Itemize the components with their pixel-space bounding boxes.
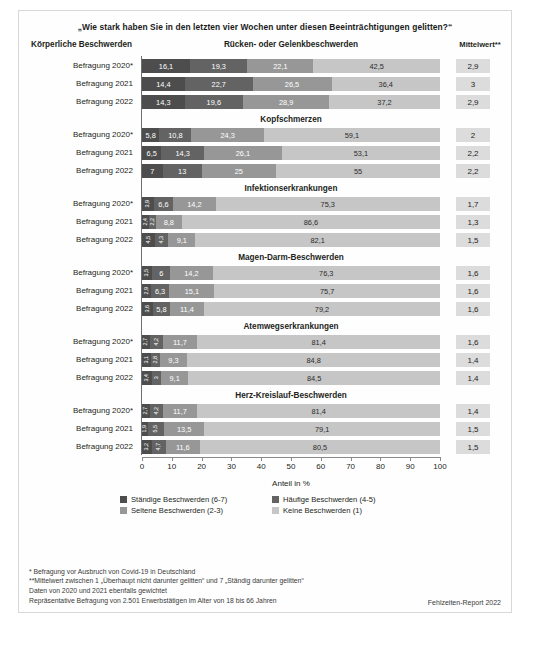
bar-segment: 2,8 <box>151 353 159 367</box>
row-label: Befragung 2020* <box>19 58 137 74</box>
x-axis-tick-label: 40 <box>257 462 266 471</box>
stacked-bar: 7132555 <box>142 164 440 178</box>
segment-value: 81,4 <box>311 338 325 347</box>
mean-value: 1,3 <box>456 215 490 229</box>
segment-value: 8,8 <box>164 218 174 227</box>
segment-value: 59,1 <box>345 131 359 140</box>
bar-segment: 75,7 <box>214 284 440 298</box>
x-axis-tick-label: 90 <box>406 462 415 471</box>
row-label: Befragung 2022 <box>19 301 137 317</box>
chart-group: KopfschmerzenBefragung 2020*5,810,824,35… <box>19 112 511 179</box>
column-headers: Körperliche Beschwerden Rücken- oder Gel… <box>19 40 511 56</box>
stacked-bar: 14,422,726,536,4 <box>142 77 440 91</box>
segment-value-rotated: 5,5 <box>153 425 158 433</box>
segment-value: 6 <box>159 269 163 278</box>
segment-value: 25 <box>235 167 243 176</box>
x-axis-tick <box>321 457 322 461</box>
stacked-bar: 2,74,211,781,4 <box>142 404 440 418</box>
bar-segment: 4,2 <box>150 404 163 418</box>
x-axis-tick-label: 10 <box>167 462 176 471</box>
segment-value-rotated: 4,7 <box>156 443 161 451</box>
row-label: Befragung 2021 <box>19 352 137 368</box>
x-axis-tick <box>351 457 352 461</box>
x-axis-tick-label: 80 <box>376 462 385 471</box>
segment-value: 53,1 <box>354 149 368 158</box>
bar-segment: 3,1 <box>142 353 151 367</box>
chart-row: Befragung 2020*5,810,824,359,12 <box>19 127 511 143</box>
stacked-bar: 2,42,28,886,6 <box>142 215 440 229</box>
chart-row: Befragung 2020*3,96,614,275,31,7 <box>19 196 511 212</box>
legend: Ständige Beschwerden (6-7)Häufige Beschw… <box>120 495 410 515</box>
x-axis-tick <box>291 457 292 461</box>
chart-title: „Wie stark haben Sie in den letzten vier… <box>19 22 511 32</box>
mean-value: 1,6 <box>456 266 490 280</box>
stacked-bar: 5,810,824,359,1 <box>142 128 440 142</box>
legend-label: Keine Beschwerden (1) <box>283 506 362 515</box>
chart-row: Befragung 202271325552,2 <box>19 163 511 179</box>
bar-segment: 4,5 <box>142 233 155 247</box>
x-axis-tick-label: 70 <box>346 462 355 471</box>
segment-value: 13,5 <box>177 425 191 434</box>
mean-value: 2 <box>456 128 490 142</box>
segment-value: 36,4 <box>379 80 393 89</box>
bar-segment: 13 <box>163 164 202 178</box>
legend-item: Keine Beschwerden (1) <box>272 506 362 515</box>
chart-row: Befragung 20211,95,513,579,11,5 <box>19 421 511 437</box>
segment-value: 14,2 <box>184 269 198 278</box>
bar-segment: 2,4 <box>142 215 149 229</box>
row-label: Befragung 2020* <box>19 403 137 419</box>
segment-value-rotated: 3,5 <box>145 269 150 277</box>
bar-segment: 15,1 <box>169 284 214 298</box>
mean-value: 1,6 <box>456 302 490 316</box>
x-axis-tick <box>231 457 232 461</box>
stacked-bar: 6,514,326,153,1 <box>142 146 440 160</box>
stacked-bar: 3,24,711,680,5 <box>142 440 440 454</box>
bar-segment: 59,1 <box>264 128 440 142</box>
segment-value: 75,7 <box>320 287 334 296</box>
bar-segment: 19,6 <box>185 95 243 109</box>
row-label: Befragung 2022 <box>19 370 137 386</box>
x-axis-tick-label: 60 <box>316 462 325 471</box>
bar-segment: 9,1 <box>161 371 188 385</box>
x-axis-tick-label: 100 <box>433 462 446 471</box>
group-title: Magen-Darm-Beschwerden <box>141 250 441 265</box>
segment-value: 76,3 <box>319 269 333 278</box>
bar-segment: 4,3 <box>155 233 168 247</box>
bar-segment: 3,9 <box>142 197 154 211</box>
legend-label: Ständige Beschwerden (6-7) <box>131 495 227 504</box>
segment-value: 6,6 <box>158 200 168 209</box>
segment-value: 84,8 <box>306 356 320 365</box>
legend-row: Seltene Beschwerden (2-3)Keine Beschwerd… <box>120 506 410 515</box>
segment-value-rotated: 2,8 <box>153 356 158 364</box>
bar-segment: 79,2 <box>204 302 440 316</box>
chart-group: Magen-Darm-BeschwerdenBefragung 2020*3,5… <box>19 250 511 317</box>
chart-row: Befragung 2020*16,119,322,142,52,9 <box>19 58 511 74</box>
segment-value: 14,3 <box>156 98 170 107</box>
segment-value-rotated: 4,2 <box>154 338 159 346</box>
bar-segment: 3,6 <box>142 302 153 316</box>
row-label: Befragung 2021 <box>19 214 137 230</box>
segment-value-rotated: 2,2 <box>150 218 155 226</box>
segment-value: 22,7 <box>212 80 226 89</box>
source-label: Fehlzeiten-Report 2022 <box>428 599 501 606</box>
bar-segment: 5,8 <box>153 302 170 316</box>
segment-value: 79,1 <box>315 425 329 434</box>
bar-segment: 84,8 <box>187 353 440 367</box>
segment-value: 22,1 <box>273 62 287 71</box>
row-label: Befragung 2020* <box>19 334 137 350</box>
bar-segment: 7 <box>142 164 163 178</box>
x-axis-tick <box>440 457 441 461</box>
bar-segment: 24,3 <box>191 128 263 142</box>
x-axis-tick-label: 20 <box>197 462 206 471</box>
segment-value: 11,6 <box>176 443 190 452</box>
bar-segment: 8,8 <box>156 215 182 229</box>
bar-segment: 26,5 <box>253 77 332 91</box>
x-axis-tick <box>142 457 143 461</box>
mean-value: 2,2 <box>456 164 490 178</box>
bar-segment: 11,7 <box>163 335 198 349</box>
row-label: Befragung 2021 <box>19 421 137 437</box>
mean-value: 2,2 <box>456 146 490 160</box>
bar-segment: 81,4 <box>197 404 440 418</box>
mean-value: 1,6 <box>456 335 490 349</box>
stacked-bar: 16,119,322,142,5 <box>142 59 440 73</box>
